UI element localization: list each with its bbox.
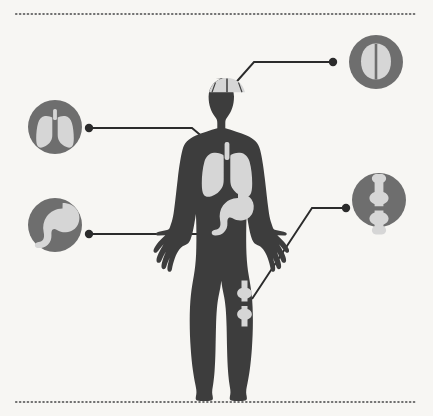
callout-badge-brain[interactable]	[349, 35, 403, 89]
knee-icon-lower-bone	[369, 211, 388, 235]
diagram-stage	[0, 0, 433, 416]
leader-dot-lungs	[85, 124, 93, 132]
lungs-badge-circle[interactable]	[28, 100, 82, 154]
leader-dot-brain	[329, 58, 337, 66]
anatomy-infographic	[0, 0, 433, 416]
diagram-canvas	[0, 0, 433, 416]
body-trachea	[225, 142, 230, 160]
callout-badge-stomach[interactable]	[28, 198, 82, 252]
leader-dot-knee	[342, 204, 350, 212]
leader-dot-stomach	[85, 230, 93, 238]
callout-badge-lungs[interactable]	[28, 100, 82, 154]
lungs-icon-trachea	[53, 109, 57, 120]
